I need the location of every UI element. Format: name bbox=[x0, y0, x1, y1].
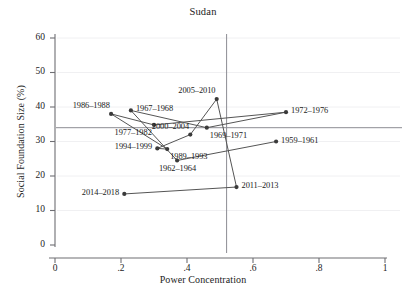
x-tick-label: .6 bbox=[238, 263, 268, 273]
data-point-label: 2000–2004 bbox=[152, 122, 189, 131]
data-point-marker[interactable] bbox=[188, 133, 192, 137]
y-axis-title: Social Foundation Size (%) bbox=[15, 32, 26, 252]
gridlines-group bbox=[57, 38, 400, 211]
x-tick-label: .8 bbox=[304, 263, 334, 273]
data-point-label: 1962–1964 bbox=[159, 164, 196, 173]
x-tick-label: 0 bbox=[40, 263, 70, 273]
data-point-label: 2011–2013 bbox=[242, 181, 279, 190]
y-tick-label: 40 bbox=[23, 101, 45, 111]
x-tick-label: .2 bbox=[106, 263, 136, 273]
data-point-marker[interactable] bbox=[109, 112, 113, 116]
x-tick-label: 1 bbox=[370, 263, 400, 273]
data-point-label: 1959–1961 bbox=[281, 136, 318, 145]
data-point-label: 1972–1976 bbox=[291, 106, 328, 115]
data-point-label: 1994–1999 bbox=[115, 142, 152, 151]
data-point-marker[interactable] bbox=[234, 185, 238, 189]
reference-lines-group bbox=[56, 34, 402, 253]
data-point-label: 1969–1971 bbox=[210, 131, 247, 140]
y-tick-label: 20 bbox=[23, 170, 45, 180]
data-point-marker[interactable] bbox=[274, 139, 278, 143]
data-point-marker[interactable] bbox=[284, 110, 288, 114]
y-tick-label: 10 bbox=[23, 204, 45, 214]
data-point-label: 1977–1982 bbox=[115, 128, 152, 137]
data-point-label: 1989–1993 bbox=[170, 152, 207, 161]
data-point-marker[interactable] bbox=[122, 192, 126, 196]
x-tick-label: .4 bbox=[172, 263, 202, 273]
data-point-marker[interactable] bbox=[129, 108, 133, 112]
data-point-marker[interactable] bbox=[205, 126, 209, 130]
data-point-marker[interactable] bbox=[165, 147, 169, 151]
data-point-label: 1986–1988 bbox=[73, 101, 110, 110]
data-point-label: 2014–2018 bbox=[82, 188, 119, 197]
y-tick-label: 30 bbox=[23, 135, 45, 145]
x-axis-title: Power Concentration bbox=[0, 274, 406, 285]
plot-canvas bbox=[0, 0, 406, 294]
y-tick-label: 0 bbox=[23, 239, 45, 249]
data-point-marker[interactable] bbox=[215, 97, 219, 101]
data-point-marker[interactable] bbox=[155, 146, 159, 150]
y-tick-label: 50 bbox=[23, 66, 45, 76]
data-point-label: 2005–2010 bbox=[178, 86, 215, 95]
data-point-label: 1967–1968 bbox=[136, 104, 173, 113]
y-tick-label: 60 bbox=[23, 32, 45, 42]
axes-group bbox=[49, 34, 387, 263]
chart-container: Sudan 0102030405060 0.2.4.6.81 1959–1961… bbox=[0, 0, 406, 294]
